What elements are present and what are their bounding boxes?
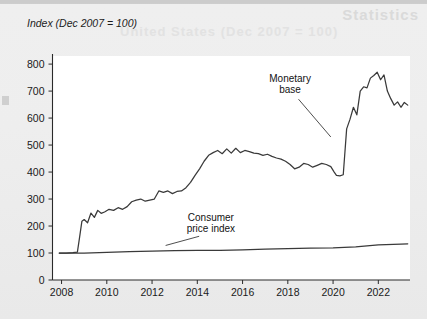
x-tick-label: 2022 xyxy=(367,286,391,298)
x-axis-ticks: 20082010201220142016201820202022 xyxy=(50,280,390,298)
x-tick-label: 2014 xyxy=(186,286,210,298)
x-tick-label: 2018 xyxy=(276,286,300,298)
y-axis-ticks: 0100200300400500600700800 xyxy=(27,58,53,286)
chart-plot: 0100200300400500600700800 20082010201220… xyxy=(0,0,427,319)
y-tick-label: 100 xyxy=(27,247,45,259)
x-tick-label: 2016 xyxy=(231,286,255,298)
x-tick-label: 2012 xyxy=(140,286,164,298)
y-tick-label: 700 xyxy=(27,85,45,97)
x-tick-label: 2008 xyxy=(50,286,74,298)
y-tick-label: 200 xyxy=(27,220,45,232)
y-tick-label: 500 xyxy=(27,139,45,151)
annotation-label: Consumer xyxy=(188,212,235,223)
annotation-label: Monetary xyxy=(269,73,311,84)
x-tick-label: 2010 xyxy=(95,286,119,298)
y-tick-label: 800 xyxy=(27,58,45,70)
y-tick-label: 300 xyxy=(27,193,45,205)
figure-container: Statistics United States (Dec 2007 = 100… xyxy=(0,0,427,319)
y-tick-label: 0 xyxy=(39,274,45,286)
x-tick-label: 2020 xyxy=(321,286,345,298)
y-tick-label: 400 xyxy=(27,166,45,178)
annotation-label: price index xyxy=(187,223,235,234)
y-tick-label: 600 xyxy=(27,112,45,124)
annotation-label: base xyxy=(279,84,301,95)
